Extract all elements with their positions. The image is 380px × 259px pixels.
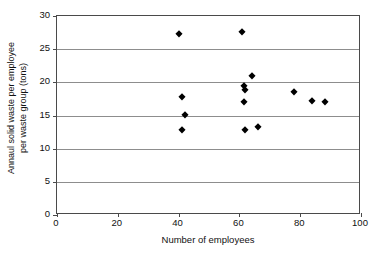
gridline-y bbox=[57, 182, 359, 183]
data-point bbox=[290, 88, 297, 95]
data-point bbox=[242, 86, 249, 93]
y-axis-title-line1: Annaul solid waste per employee bbox=[6, 41, 18, 173]
data-point bbox=[178, 93, 185, 100]
data-point bbox=[248, 72, 255, 79]
gridline-y bbox=[57, 82, 359, 83]
data-point bbox=[254, 124, 261, 131]
y-tick-mark bbox=[53, 49, 57, 50]
y-tick-label: 20 bbox=[28, 76, 50, 86]
data-point bbox=[240, 99, 247, 106]
x-tick-label: 20 bbox=[99, 217, 135, 228]
plot-area bbox=[56, 15, 360, 214]
y-tick-label: 15 bbox=[28, 110, 50, 120]
x-axis-tick-labels: 020406080100 bbox=[0, 217, 380, 231]
data-point bbox=[242, 126, 249, 133]
y-tick-mark bbox=[53, 16, 57, 17]
y-axis-title-line2: per waste group (tons) bbox=[17, 41, 29, 173]
x-tick-label: 80 bbox=[281, 217, 317, 228]
data-point bbox=[181, 111, 188, 118]
y-tick-label: 10 bbox=[28, 143, 50, 153]
data-point bbox=[178, 126, 185, 133]
y-tick-label: 30 bbox=[28, 10, 50, 20]
y-tick-mark bbox=[53, 149, 57, 150]
x-tick-label: 40 bbox=[160, 217, 196, 228]
x-axis-title: Number of employees bbox=[56, 234, 360, 245]
x-tick-label: 60 bbox=[220, 217, 256, 228]
scatter-chart: Annaul solid waste per employee per wast… bbox=[0, 0, 380, 259]
y-tick-mark bbox=[53, 116, 57, 117]
data-point bbox=[175, 30, 182, 37]
gridline-y bbox=[57, 116, 359, 117]
y-tick-label: 5 bbox=[28, 176, 50, 186]
gridline-y bbox=[57, 149, 359, 150]
x-tick-label: 100 bbox=[342, 217, 378, 228]
y-tick-label: 25 bbox=[28, 43, 50, 53]
gridline-y bbox=[57, 49, 359, 50]
data-point bbox=[309, 97, 316, 104]
data-point bbox=[321, 99, 328, 106]
y-tick-mark bbox=[53, 182, 57, 183]
y-tick-mark bbox=[53, 82, 57, 83]
data-point bbox=[239, 28, 246, 35]
x-tick-label: 0 bbox=[38, 217, 74, 228]
